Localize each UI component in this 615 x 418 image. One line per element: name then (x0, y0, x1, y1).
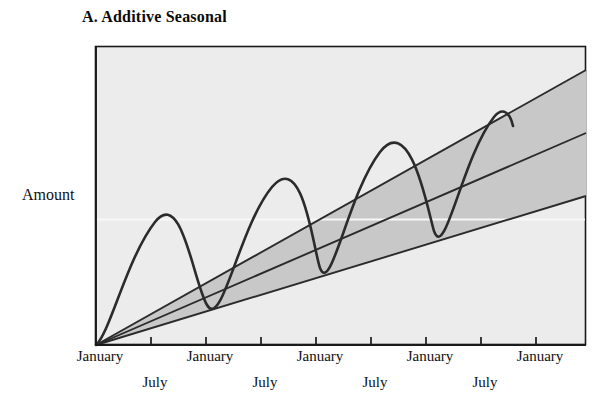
x-tick-label-july-3: July (362, 374, 387, 391)
x-tick-label-january-4: January (407, 348, 454, 365)
x-tick-label-january-5: January (517, 348, 564, 365)
x-tick-label-july-2: July (252, 374, 277, 391)
x-tick-label-january-2: January (187, 348, 234, 365)
figure-additive-seasonal: A. Additive Seasonal Amount (0, 0, 615, 418)
x-tick-label-january-1: January (77, 348, 124, 365)
x-tick-label-july-1: July (142, 374, 167, 391)
x-tick-label-january-3: January (297, 348, 344, 365)
x-tick-label-july-4: July (472, 374, 497, 391)
